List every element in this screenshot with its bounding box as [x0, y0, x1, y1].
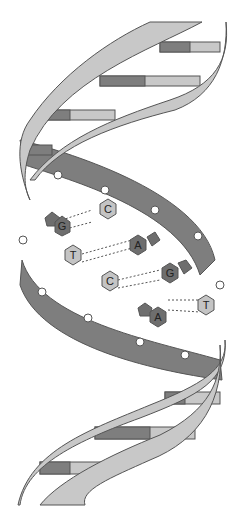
svg-text:A: A	[134, 239, 142, 251]
svg-text:G: G	[166, 267, 175, 279]
base-pair-1: G C	[45, 199, 116, 236]
back-strand-lower	[20, 260, 222, 380]
svg-text:A: A	[154, 311, 162, 323]
svg-text:T: T	[70, 249, 77, 261]
dna-helix-diagram: G C T A C G A T	[0, 0, 239, 528]
svg-text:C: C	[106, 275, 114, 287]
base-pair-2: T A	[65, 232, 160, 265]
svg-text:T: T	[203, 299, 210, 311]
svg-text:C: C	[104, 203, 112, 215]
svg-text:G: G	[58, 220, 67, 232]
base-pair-3: C G	[102, 260, 192, 291]
